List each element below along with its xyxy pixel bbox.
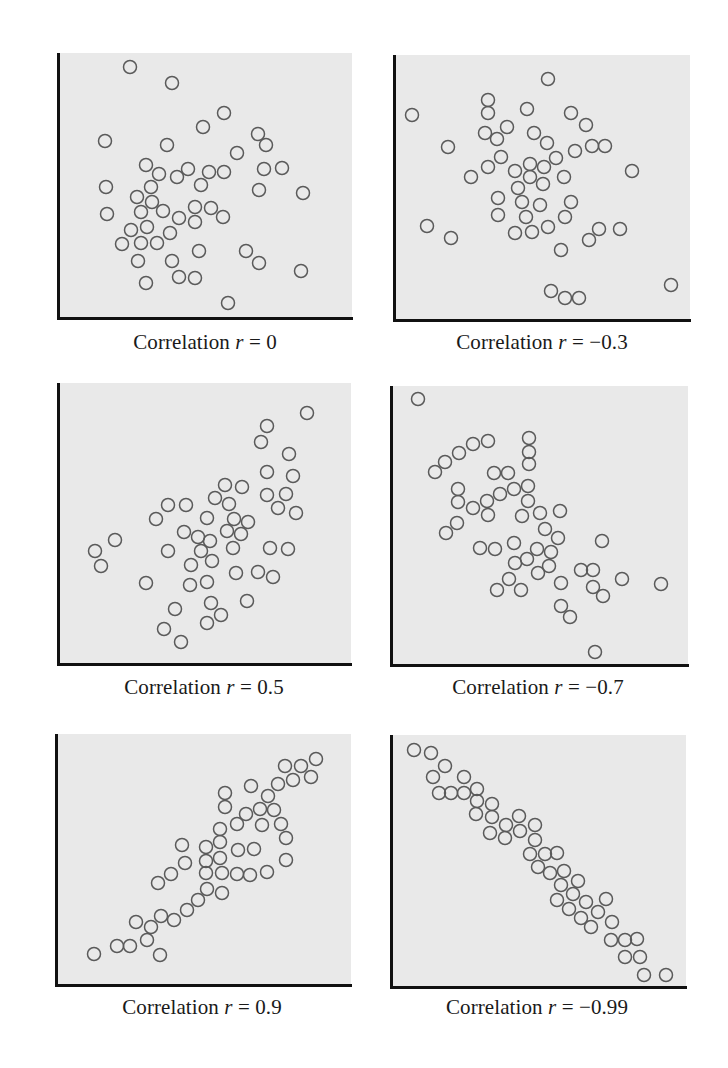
- y-axis-line: [57, 53, 60, 320]
- plot-area: [58, 383, 351, 664]
- x-axis-line: [57, 317, 353, 320]
- x-axis-line: [57, 663, 352, 666]
- panel-caption: Correlation r = 0: [133, 330, 277, 355]
- panel-caption: Correlation r = −0.3: [456, 330, 628, 355]
- x-axis-line: [390, 664, 689, 667]
- plot-area: [391, 386, 688, 665]
- x-axis-line: [390, 986, 687, 989]
- plot-area: [391, 735, 686, 987]
- y-axis-line: [57, 383, 60, 666]
- y-axis-line: [390, 735, 393, 989]
- panel-caption: Correlation r = 0.5: [124, 675, 284, 700]
- x-axis-line: [55, 984, 352, 987]
- plot-area: [394, 55, 690, 320]
- panel-caption: Correlation r = 0.9: [122, 995, 282, 1020]
- y-axis-line: [55, 734, 58, 987]
- plot-area: [56, 734, 351, 985]
- y-axis-line: [393, 55, 396, 322]
- x-axis-line: [393, 319, 691, 322]
- panel-caption: Correlation r = −0.7: [452, 675, 624, 700]
- panel-caption: Correlation r = −0.99: [446, 995, 628, 1020]
- y-axis-line: [390, 386, 393, 667]
- plot-area: [58, 53, 352, 318]
